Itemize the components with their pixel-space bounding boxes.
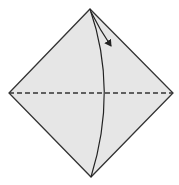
origami-diagram: [0, 0, 179, 185]
